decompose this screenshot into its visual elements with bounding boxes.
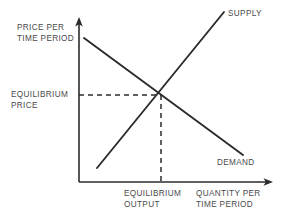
x-axis-label-line2: TIME PERIOD <box>196 200 253 209</box>
equilibrium-output-label-line2: OUTPUT <box>124 200 160 209</box>
equilibrium-price-label-line1: EQUILIBRIUM <box>11 90 68 99</box>
equilibrium-price-label-line2: PRICE <box>11 101 38 110</box>
equilibrium-output-label: EQUILIBRIUMOUTPUT <box>124 188 181 210</box>
x-axis-label-line1: QUANTITY PER <box>196 189 261 198</box>
demand-curve-label: DEMAND <box>217 158 255 169</box>
y-axis <box>75 17 83 182</box>
y-axis-label: PRICE PERTIME PERIOD <box>17 22 74 44</box>
supply-demand-diagram: PRICE PERTIME PERIOD EQUILIBRIUMPRICE SU… <box>0 0 285 219</box>
x-axis <box>79 178 273 186</box>
x-axis-label: QUANTITY PERTIME PERIOD <box>196 188 261 210</box>
supply-curve-label: SUPPLY <box>228 9 262 20</box>
equilibrium-output-label-line1: EQUILIBRIUM <box>124 189 181 198</box>
y-axis-label-line2: TIME PERIOD <box>17 34 74 43</box>
demand-curve <box>84 38 243 155</box>
y-axis-label-line1: PRICE PER <box>17 23 64 32</box>
equilibrium-price-label: EQUILIBRIUMPRICE <box>11 89 68 111</box>
